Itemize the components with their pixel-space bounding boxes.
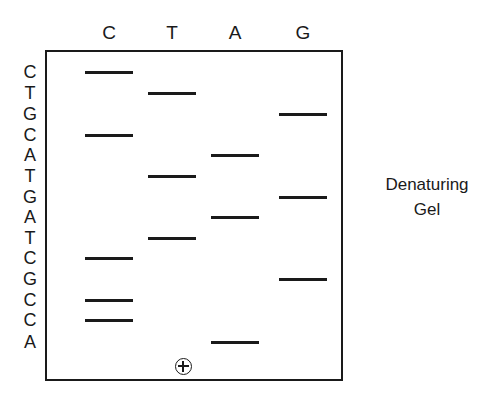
sequence-letter-column: CTGCATGATCGCCA bbox=[17, 50, 43, 381]
band-a-5 bbox=[211, 154, 259, 157]
sequence-letter-1: C bbox=[17, 63, 43, 81]
band-c-12 bbox=[85, 299, 133, 302]
band-a-8 bbox=[211, 216, 259, 219]
sequence-letter-6: T bbox=[17, 167, 43, 185]
band-t-9 bbox=[148, 237, 196, 240]
sequence-letter-14: A bbox=[17, 333, 43, 351]
anode-plus-icon bbox=[175, 358, 192, 375]
band-t-2 bbox=[148, 92, 196, 95]
side-caption: Denaturing Gel bbox=[356, 172, 498, 222]
sequence-letter-3: G bbox=[17, 105, 43, 123]
band-c-10 bbox=[85, 257, 133, 260]
sequence-letter-8: A bbox=[17, 208, 43, 226]
side-caption-line-1: Denaturing bbox=[356, 172, 498, 197]
band-t-6 bbox=[148, 175, 196, 178]
sequence-letter-12: C bbox=[17, 291, 43, 309]
sequence-letter-7: G bbox=[17, 188, 43, 206]
band-a-14 bbox=[211, 341, 259, 344]
sequence-letter-5: A bbox=[17, 146, 43, 164]
sequence-letter-11: G bbox=[17, 270, 43, 288]
lane-header-g: G bbox=[288, 22, 318, 44]
sequence-letter-13: C bbox=[17, 311, 43, 329]
sequence-letter-9: T bbox=[17, 229, 43, 247]
lane-header-c: C bbox=[94, 22, 124, 44]
band-c-4 bbox=[85, 134, 133, 137]
sequencing-gel-figure: CTAG CTGCATGATCGCCA Denaturing Gel bbox=[0, 0, 501, 404]
band-c-13 bbox=[85, 319, 133, 322]
band-g-7 bbox=[279, 196, 327, 199]
sequence-letter-10: C bbox=[17, 249, 43, 267]
band-g-3 bbox=[279, 113, 327, 116]
band-g-11 bbox=[279, 278, 327, 281]
sequence-letter-2: T bbox=[17, 84, 43, 102]
lane-header-a: A bbox=[220, 22, 250, 44]
sequence-letter-4: C bbox=[17, 126, 43, 144]
side-caption-line-2: Gel bbox=[356, 197, 498, 222]
band-c-1 bbox=[85, 71, 133, 74]
band-layer bbox=[45, 50, 343, 381]
lane-header-t: T bbox=[157, 22, 187, 44]
